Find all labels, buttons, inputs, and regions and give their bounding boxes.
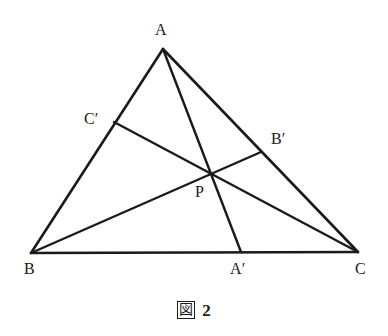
cevian-C-to-Cprime bbox=[114, 122, 358, 252]
figure-caption-mark: 図 bbox=[177, 301, 195, 319]
point-label-A: A bbox=[155, 22, 167, 38]
side-AB bbox=[31, 49, 163, 253]
point-label-P: P bbox=[195, 184, 204, 200]
side-BC bbox=[31, 252, 358, 253]
cevian-B-to-Bprime bbox=[31, 152, 261, 253]
point-label-A-prime: A′ bbox=[230, 261, 245, 277]
point-label-B: B bbox=[24, 261, 35, 277]
point-label-B-prime: B′ bbox=[271, 131, 286, 147]
figure-caption: 図2 bbox=[0, 300, 388, 319]
figure-container: A B C A′ B′ C′ P 図2 bbox=[0, 0, 388, 336]
geometry-drawing bbox=[0, 0, 388, 336]
point-label-C: C bbox=[355, 261, 366, 277]
side-CA bbox=[163, 49, 358, 252]
figure-caption-number: 2 bbox=[202, 302, 211, 319]
cevian-A-to-Aprime bbox=[163, 49, 241, 252]
point-label-C-prime: C′ bbox=[84, 111, 99, 127]
